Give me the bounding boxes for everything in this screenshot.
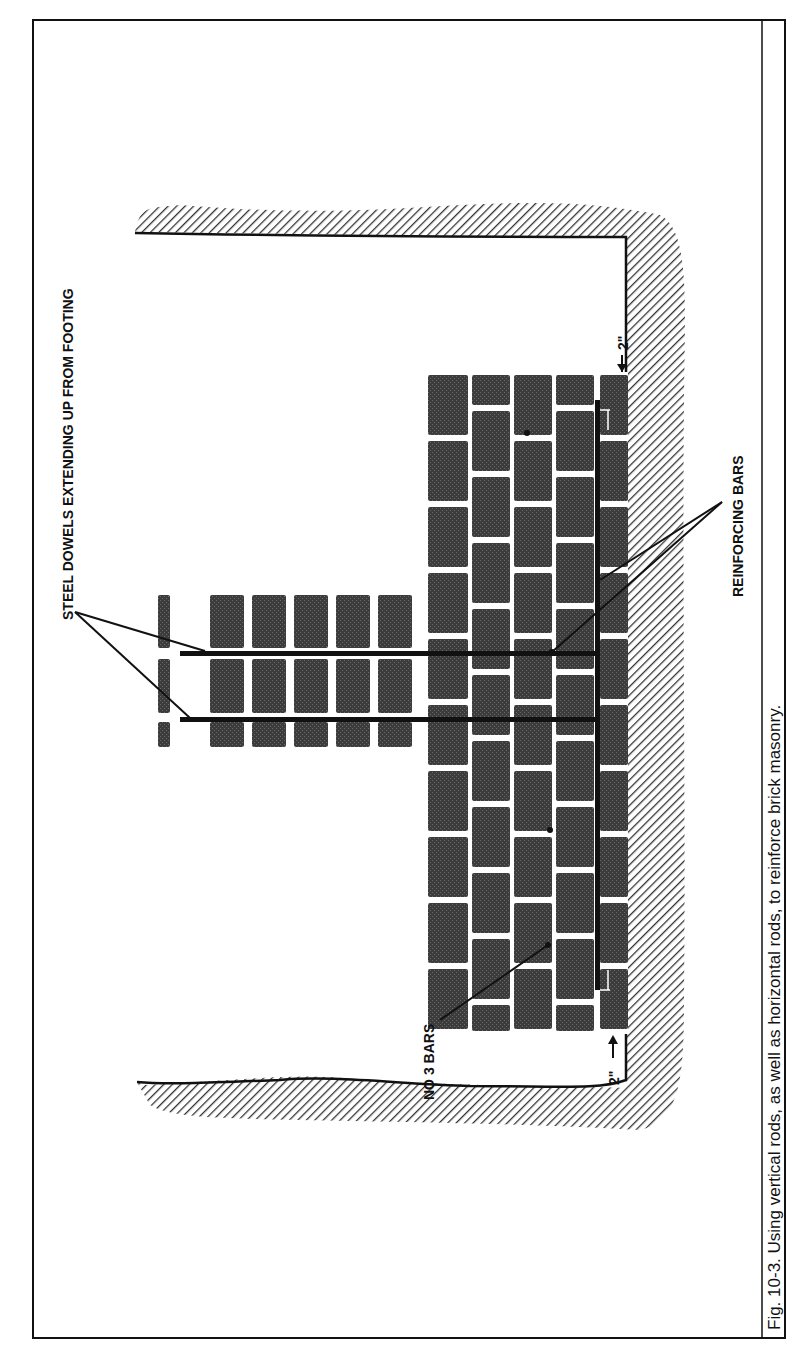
brick bbox=[210, 659, 244, 713]
brick bbox=[472, 375, 510, 405]
brick bbox=[428, 375, 468, 435]
brick bbox=[556, 873, 594, 933]
brick bbox=[556, 1005, 594, 1031]
brick bbox=[600, 969, 628, 1029]
brick bbox=[428, 441, 468, 501]
brick bbox=[514, 441, 552, 501]
brick bbox=[600, 639, 628, 699]
brick bbox=[472, 807, 510, 867]
brick bbox=[472, 477, 510, 537]
brick bbox=[472, 939, 510, 999]
brick bbox=[294, 722, 328, 747]
brick bbox=[472, 873, 510, 933]
brick bbox=[600, 507, 628, 567]
label-clearance-bottom: 2" bbox=[606, 1071, 622, 1085]
brick bbox=[428, 639, 468, 699]
brick bbox=[428, 705, 468, 765]
brick bbox=[336, 659, 370, 713]
brick bbox=[514, 639, 552, 699]
brick bbox=[210, 722, 244, 747]
label-reinforcing-bars: REINFORCING BARS bbox=[730, 455, 746, 597]
brick bbox=[472, 411, 510, 471]
brick bbox=[472, 675, 510, 735]
brick bbox=[556, 807, 594, 867]
brick bbox=[428, 903, 468, 963]
brick bbox=[600, 441, 628, 501]
brick bbox=[252, 659, 286, 713]
brick bbox=[210, 595, 244, 648]
brick bbox=[514, 507, 552, 567]
brick bbox=[556, 543, 594, 603]
brick bbox=[252, 722, 286, 747]
brick bbox=[514, 573, 552, 633]
brick bbox=[556, 477, 594, 537]
brick bbox=[158, 722, 170, 747]
brick bbox=[428, 837, 468, 897]
brick bbox=[556, 411, 594, 471]
brick bbox=[428, 969, 468, 1029]
label-no3-bars: NO 3 BARS bbox=[421, 1024, 437, 1100]
masonry-reinforcement-figure: STEEL DOWELS EXTENDING UP FROM FOOTING R… bbox=[0, 0, 798, 1366]
brick bbox=[294, 659, 328, 713]
label-steel-dowels: STEEL DOWELS EXTENDING UP FROM FOOTING bbox=[60, 288, 76, 620]
brick bbox=[600, 903, 628, 963]
brick bbox=[378, 722, 412, 747]
brick bbox=[514, 903, 552, 963]
brick bbox=[600, 837, 628, 897]
steel-dowel bbox=[180, 717, 595, 722]
brick bbox=[472, 1005, 510, 1031]
brick-pier bbox=[155, 592, 427, 749]
brick bbox=[252, 595, 286, 648]
label-clearance-top: 2" bbox=[615, 336, 631, 350]
brick bbox=[556, 609, 594, 669]
brick bbox=[600, 705, 628, 765]
brick bbox=[336, 722, 370, 747]
figure-caption: Fig. 10-3. Using vertical rods, as well … bbox=[765, 705, 784, 1330]
brick bbox=[428, 507, 468, 567]
brick bbox=[556, 939, 594, 999]
brick bbox=[514, 705, 552, 765]
brick bbox=[294, 595, 328, 648]
brick bbox=[514, 375, 552, 435]
brick bbox=[600, 375, 628, 435]
brick bbox=[556, 375, 594, 405]
brick bbox=[378, 595, 412, 648]
brick bbox=[514, 969, 552, 1029]
brick bbox=[158, 659, 170, 713]
brick bbox=[472, 543, 510, 603]
brick bbox=[428, 771, 468, 831]
brick bbox=[428, 573, 468, 633]
horizontal-rod bbox=[595, 400, 600, 990]
brick bbox=[514, 837, 552, 897]
brick bbox=[514, 771, 552, 831]
brick bbox=[378, 659, 412, 713]
brick bbox=[600, 771, 628, 831]
steel-dowel bbox=[180, 651, 595, 656]
brick bbox=[472, 741, 510, 801]
brick bbox=[600, 573, 628, 633]
brick bbox=[336, 595, 370, 648]
brick bbox=[556, 675, 594, 735]
brick bbox=[556, 741, 594, 801]
brick bbox=[472, 609, 510, 669]
